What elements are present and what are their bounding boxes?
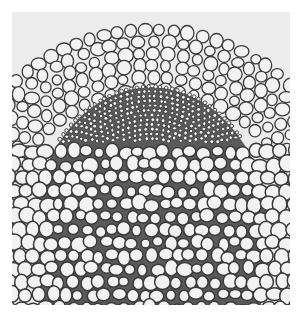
micrograph (12, 12, 290, 305)
cell-tissue-pattern (12, 12, 290, 305)
